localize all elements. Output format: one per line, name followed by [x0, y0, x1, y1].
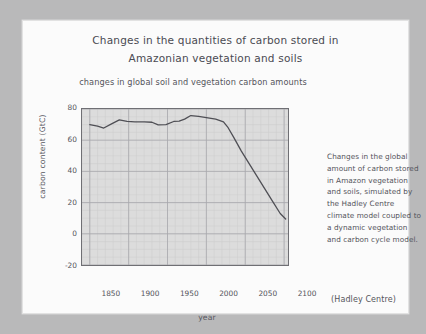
slide-canvas: Changes in the quantities of carbon stor…	[0, 0, 426, 334]
source-credit: (Hadley Centre)	[331, 295, 396, 304]
slide-card: Changes in the quantities of carbon stor…	[22, 20, 409, 314]
chart-subtitle: changes in global soil and vegetation ca…	[48, 77, 338, 87]
x-tick-1850: 1850	[94, 289, 128, 298]
y-tick--20: -20	[53, 261, 77, 270]
page-title-line-1: Changes in the quantities of carbon stor…	[23, 34, 408, 46]
y-axis-label: carbon content (GtC)	[38, 97, 47, 217]
y-tick-40: 40	[53, 166, 77, 175]
chart-caption: Changes in the global amount of carbon s…	[327, 151, 423, 246]
y-axis-tick-labels: -20020406080	[53, 108, 77, 266]
x-axis-tick-labels: 185019001950200020502100	[103, 289, 311, 301]
x-tick-1900: 1900	[133, 289, 167, 298]
x-tick-2050: 2050	[251, 289, 285, 298]
x-tick-1950: 1950	[172, 289, 206, 298]
chart-plot-area	[81, 108, 289, 266]
y-tick-0: 0	[53, 229, 77, 238]
page-title-line-2: Amazonian vegetation and soils	[23, 52, 408, 64]
x-tick-2100: 2100	[290, 289, 324, 298]
x-axis-label: year	[103, 313, 311, 322]
y-tick-80: 80	[53, 103, 77, 112]
y-tick-60: 60	[53, 135, 77, 144]
x-tick-2000: 2000	[212, 289, 246, 298]
chart-line-svg	[82, 109, 288, 265]
y-tick-20: 20	[53, 198, 77, 207]
